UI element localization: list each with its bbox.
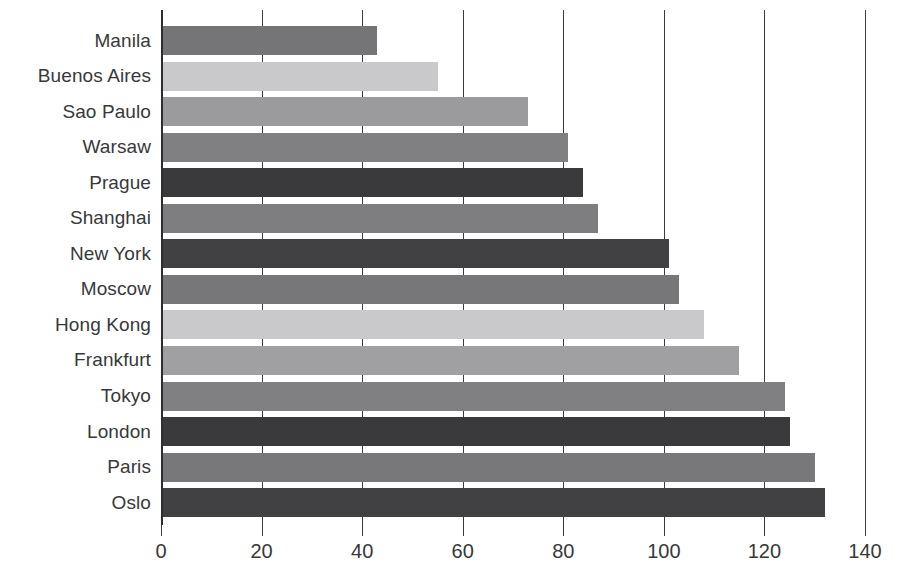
bar[interactable] [161,168,583,197]
category-label-tokyo: Tokyo [101,386,151,405]
bar[interactable] [161,310,704,339]
x-tick-120 [764,525,765,536]
x-tick-label-60: 60 [452,541,474,561]
category-label-manila: Manila [94,31,151,50]
y-axis-line [161,10,163,527]
x-tick-20 [262,525,263,536]
x-tick-label-140: 140 [848,541,881,561]
category-label-sao-paulo: Sao Paulo [62,102,151,121]
x-tick-label-20: 20 [250,541,272,561]
x-tick-80 [563,525,564,536]
x-tick-label-80: 80 [552,541,574,561]
gridline-120 [764,10,765,525]
category-label-moscow: Moscow [81,279,151,298]
category-label-warsaw: Warsaw [82,137,151,156]
bar[interactable] [161,453,815,482]
gridline-140 [865,10,866,525]
x-tick-label-100: 100 [647,541,680,561]
bar[interactable] [161,204,598,233]
bar[interactable] [161,382,785,411]
x-tick-label-40: 40 [351,541,373,561]
category-label-new-york: New York [70,244,151,263]
bar[interactable] [161,239,669,268]
bar[interactable] [161,26,377,55]
category-label-shanghai: Shanghai [70,208,151,227]
category-label-frankfurt: Frankfurt [74,350,151,369]
category-label-hong-kong: Hong Kong [55,315,151,334]
x-tick-60 [463,525,464,536]
x-axis-line [161,525,867,527]
category-axis-labels: ManilaBuenos AiresSao PauloWarsawPragueS… [0,0,157,588]
bar[interactable] [161,133,568,162]
bar[interactable] [161,62,438,91]
bar[interactable] [161,417,790,446]
bar[interactable] [161,346,739,375]
category-label-london: London [87,422,151,441]
bar-chart: ManilaBuenos AiresSao PauloWarsawPragueS… [0,0,901,588]
category-label-paris: Paris [107,457,151,476]
bar[interactable] [161,488,825,517]
x-tick-label-0: 0 [155,541,166,561]
plot-area [161,10,865,525]
x-tick-label-120: 120 [748,541,781,561]
x-tick-0 [161,525,162,536]
bar[interactable] [161,97,528,126]
x-tick-140 [865,525,866,536]
category-label-oslo: Oslo [112,493,151,512]
bar[interactable] [161,275,679,304]
x-tick-100 [664,525,665,536]
x-tick-40 [362,525,363,536]
category-label-buenos-aires: Buenos Aires [38,66,151,85]
category-label-prague: Prague [89,173,151,192]
